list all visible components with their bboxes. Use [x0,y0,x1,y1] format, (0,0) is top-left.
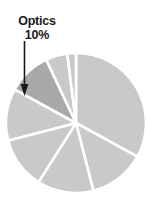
down-arrow-icon [21,84,29,96]
callout-leader-line [0,0,147,208]
pie-chart-figure: Optics 10% [0,0,147,208]
